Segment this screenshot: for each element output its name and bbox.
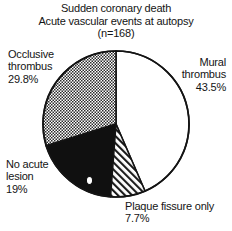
pie-chart xyxy=(42,50,190,198)
pie-svg xyxy=(42,50,190,198)
slice-label-plaque-fissure-only: Plaque fissure only 7.7% xyxy=(125,200,214,225)
slice-label-occlusive-thrombus: Occlusive thrombus 29.8% xyxy=(8,48,54,85)
mural-label-percent: 43.5% xyxy=(182,81,226,93)
slice-label-no-acute-lesion: No acute lesion 19% xyxy=(6,158,48,195)
occlusive-label-line-1: Occlusive xyxy=(8,48,54,60)
occlusive-label-line-2: thrombus xyxy=(8,60,54,72)
plaque-label-line-1: Plaque fissure only xyxy=(125,200,214,212)
noacute-label-line-1: No acute xyxy=(6,158,48,170)
print-artifact-mark xyxy=(86,177,92,185)
noacute-label-line-2: lesion xyxy=(6,170,48,182)
pie-chart-figure: Sudden coronary death Acute vascular eve… xyxy=(0,0,232,231)
mural-label-line-2: thrombus xyxy=(182,68,226,80)
mural-label-line-1: Mural xyxy=(182,56,226,68)
title-line-3-sample-size: (n=168) xyxy=(0,27,232,40)
chart-title: Sudden coronary death Acute vascular eve… xyxy=(0,2,232,40)
plaque-label-percent: 7.7% xyxy=(125,212,214,224)
title-line-1: Sudden coronary death xyxy=(0,2,232,15)
occlusive-label-percent: 29.8% xyxy=(8,73,54,85)
slice-label-mural-thrombus: Mural thrombus 43.5% xyxy=(182,56,226,93)
title-line-2: Acute vascular events at autopsy xyxy=(0,15,232,28)
noacute-label-percent: 19% xyxy=(6,183,48,195)
